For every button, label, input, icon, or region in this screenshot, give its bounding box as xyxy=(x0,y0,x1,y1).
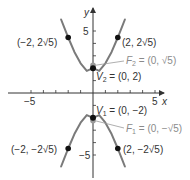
x-tick-label-max: 5 xyxy=(152,96,158,107)
y-axis-label: y xyxy=(83,7,90,18)
focus-label-f1: F1 = (0, −√5) xyxy=(126,123,182,135)
label-bottom-right: (2, −2√5) xyxy=(123,144,163,155)
vertex-label-v1: V1 = (0, −2) xyxy=(96,105,147,117)
focus-label-f2: F2 = (0, √5) xyxy=(126,55,176,67)
point-top-right xyxy=(115,35,121,41)
y-tick-label-max: 5 xyxy=(83,26,89,37)
x-axis-label: x xyxy=(161,96,168,107)
focus-leader-f2 xyxy=(95,61,124,65)
label-top-left: (−2, 2√5) xyxy=(17,37,57,48)
x-tick-label-min: −5 xyxy=(24,96,36,107)
focus-leader-f1 xyxy=(95,121,124,128)
label-bottom-left: (−2, −2√5) xyxy=(11,144,57,155)
point-bottom-left xyxy=(65,146,71,152)
hyperbola-diagram: −5 5 x 5 −5 y (−2, 2√5) (2, 2√5) (−2, −2… xyxy=(0,0,190,180)
y-tick-label-min: −5 xyxy=(79,150,91,161)
point-top-left xyxy=(65,35,71,41)
point-bottom-right xyxy=(115,146,121,152)
vertex-label-v2: V2 = (0, 2) xyxy=(96,71,141,83)
label-top-right: (2, 2√5) xyxy=(122,37,156,48)
